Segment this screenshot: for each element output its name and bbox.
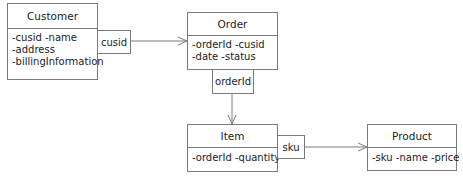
class-name: Customer (8, 4, 97, 29)
qualifier-sku: sku (277, 135, 305, 159)
qualifier-cusid: cusid (97, 30, 131, 54)
class-product: Product -sku -name -price (367, 124, 457, 171)
class-order: Order -orderId -cusid -date -status (187, 12, 278, 70)
attribute: -cusid -name (12, 32, 97, 44)
qualifier-orderid: orderId (212, 69, 254, 94)
class-attributes: -cusid -name -address -billingInformatio… (8, 29, 97, 79)
attribute: -billingInformation (12, 56, 97, 68)
class-attributes: -orderId -quantity (188, 148, 277, 171)
class-name: Item (188, 125, 277, 148)
attribute: -sku -name -price (372, 152, 456, 164)
class-name: Product (368, 125, 456, 148)
attribute: -address (12, 44, 97, 56)
class-customer: Customer -cusid -name -address -billingI… (7, 3, 98, 80)
attribute: -orderId -cusid (192, 39, 277, 51)
attribute: -orderId -quantity (192, 152, 277, 164)
class-item: Item -orderId -quantity (187, 124, 278, 172)
class-attributes: -sku -name -price (368, 148, 456, 170)
class-name: Order (188, 13, 277, 36)
class-attributes: -orderId -cusid -date -status (188, 36, 277, 69)
attribute: -date -status (192, 51, 277, 63)
